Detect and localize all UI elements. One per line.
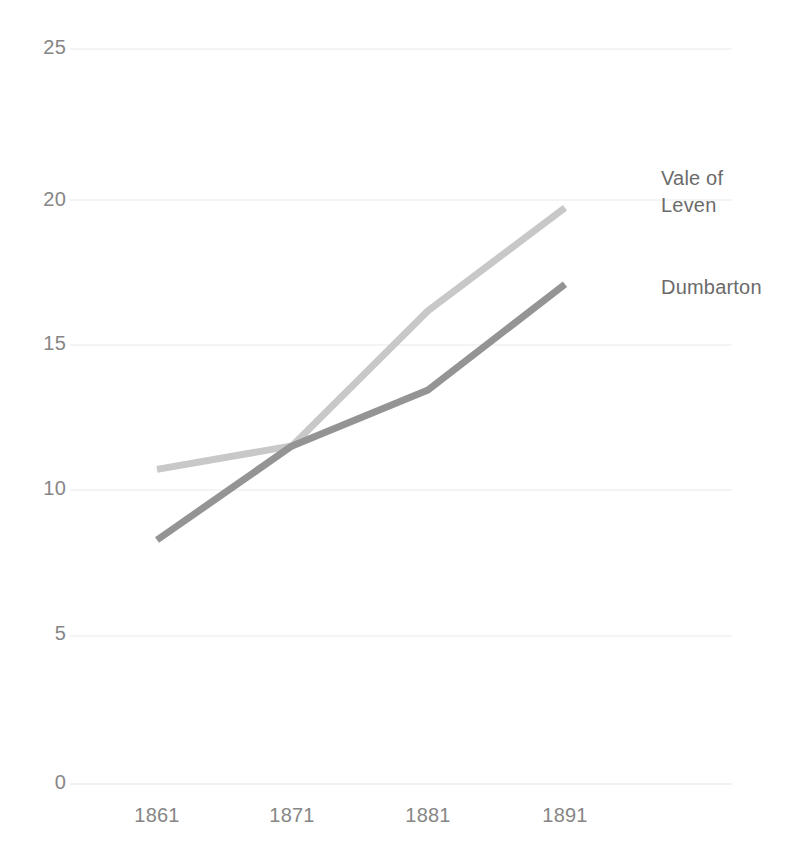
x-tick-label-1881: 1881 (373, 804, 483, 827)
series-label-dumbarton: Dumbarton (661, 274, 762, 301)
series-line-vale-of-leven (157, 208, 565, 470)
x-tick-label-1861: 1861 (102, 804, 212, 827)
line-chart: 25 20 15 10 5 0 1861 1871 1881 1891 Vale… (0, 0, 795, 848)
series-label-vale-of-leven: Vale of Leven (661, 165, 723, 219)
gridlines (70, 49, 732, 784)
y-tick-label-10: 10 (20, 477, 66, 500)
y-tick-label-25: 25 (20, 36, 66, 59)
y-tick-label-5: 5 (20, 622, 66, 645)
y-tick-label-0: 0 (20, 771, 66, 794)
x-tick-label-1891: 1891 (510, 804, 620, 827)
x-tick-label-1871: 1871 (237, 804, 347, 827)
series-line-dumbarton (157, 284, 565, 540)
y-tick-label-15: 15 (20, 332, 66, 355)
chart-plot-area (0, 0, 795, 848)
y-tick-label-20: 20 (20, 188, 66, 211)
